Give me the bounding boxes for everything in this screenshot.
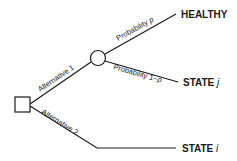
alternative-2-label: Alternative 2 <box>40 107 80 137</box>
outcome-state-j-label: STATE j <box>183 77 220 88</box>
chance-node <box>91 51 106 66</box>
outcome-state-i-label: STATE i <box>182 143 219 154</box>
outcome-healthy-label: HEALTHY <box>181 9 228 20</box>
probability-1-minus-p-label: Probability 1−p <box>112 62 162 84</box>
decision-node <box>15 97 30 112</box>
alternative-1-label: Alternative 1 <box>36 63 76 94</box>
decision-tree-diagram: Alternative 1 Alternative 2 Probability … <box>0 0 237 161</box>
